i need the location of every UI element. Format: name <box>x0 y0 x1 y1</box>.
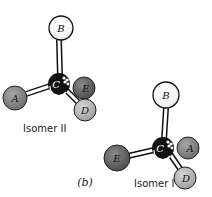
atom-b-label: B <box>161 90 169 101</box>
bond-c-b <box>164 108 166 140</box>
atom-e: E <box>104 145 130 171</box>
atom-a-label: A <box>10 93 18 104</box>
bond-c-b <box>59 40 60 76</box>
isomer-ii-model: B E A C D Isomer II <box>3 16 96 134</box>
atom-b: B <box>49 16 73 40</box>
isomers-diagram: B E A C D Isomer II <box>0 0 212 197</box>
atom-d-label: D <box>181 173 190 184</box>
bond-c-d <box>170 154 181 170</box>
atom-a: A <box>177 137 199 159</box>
isomer-ii-label: Isomer II <box>23 123 66 134</box>
atom-e: E <box>73 77 95 99</box>
atom-c-label: C <box>156 143 164 154</box>
atom-d: D <box>174 167 196 189</box>
atom-d: D <box>74 99 96 121</box>
isomer-i-label: Isomer I <box>134 178 174 189</box>
atom-a: A <box>3 86 27 110</box>
atom-a-label: A <box>185 143 193 154</box>
atom-b-label: B <box>56 23 64 34</box>
atom-e-label: E <box>81 83 90 94</box>
atom-b: B <box>153 82 179 108</box>
atom-e-label: E <box>112 153 121 164</box>
atom-c-label: C <box>52 79 60 90</box>
bond-c-a <box>26 86 50 94</box>
figure-caption: (b) <box>77 176 93 189</box>
bond-c-e <box>128 150 154 156</box>
atom-d-label: D <box>80 105 89 116</box>
isomer-i-model: B A E C D Isomer I <box>104 82 199 189</box>
